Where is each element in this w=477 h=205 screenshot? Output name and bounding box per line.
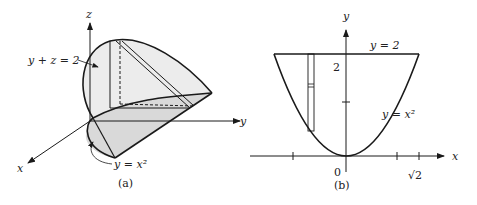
z-axis-label: z: [85, 8, 92, 21]
y-tick-2-label: 2: [333, 61, 340, 74]
x-axis-a: [28, 121, 90, 163]
x-axis-label-b: x: [452, 150, 459, 163]
cylinder-label: y = x²: [113, 158, 147, 171]
integration-strip: [308, 54, 314, 131]
x-axis-label-a: x: [17, 162, 24, 175]
x-tick-sqrt2-label: √2: [408, 169, 422, 182]
line-label: y = 2: [369, 39, 399, 52]
figure-canvas: z y x y + z = 2 y = x² (a) y x y = 2 y =…: [0, 0, 477, 205]
origin-label: 0: [334, 166, 341, 179]
curve-label: y = x²: [381, 108, 415, 121]
caption-a: (a): [118, 177, 133, 190]
y-axis-label-a: y: [239, 115, 247, 128]
figure-a-solid: [28, 23, 240, 163]
figure-b-plot: [250, 30, 444, 172]
plane-label: y + z = 2: [27, 54, 79, 67]
caption-b: (b): [334, 179, 350, 192]
y-axis-label-b: y: [342, 10, 350, 23]
